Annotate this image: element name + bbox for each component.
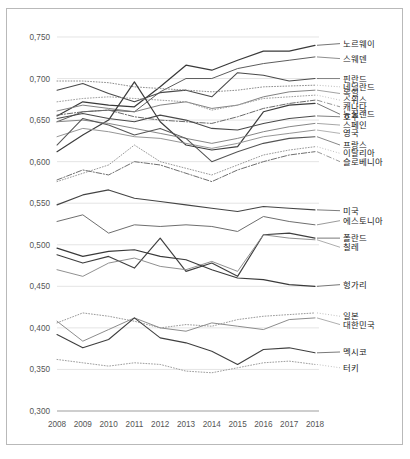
series-leader-line: [317, 90, 340, 93]
x-axis-tick-label: 2014: [203, 420, 222, 429]
x-axis-tick-label: 2013: [177, 420, 196, 429]
series-leader-line: [317, 240, 340, 247]
y-axis-tick-label: 0,400: [30, 324, 51, 333]
series-leader-line: [317, 210, 340, 211]
x-axis-ticks-group: 2008200920102011201220132014201520162017…: [48, 420, 325, 429]
series-leader-line: [317, 130, 340, 133]
x-axis-tick-label: 2009: [74, 420, 93, 429]
series-line: [57, 248, 315, 286]
series-label: 슬로베니아: [343, 157, 383, 167]
series-line: [57, 359, 315, 372]
series-leader-line: [317, 285, 340, 287]
line-chart: 0,3000,3500,4000,4500,5000,5500,6000,650…: [7, 9, 402, 444]
y-axis-tick-label: 0,300: [30, 407, 51, 416]
series-line: [57, 120, 315, 143]
series-leader-line: [317, 123, 340, 125]
y-axis-tick-label: 0,650: [30, 116, 51, 125]
series-leader-line: [317, 100, 340, 107]
series-label: 헝가리: [343, 280, 367, 290]
series-leader-line: [317, 318, 340, 325]
y-axis-tick-label: 0,750: [30, 33, 51, 42]
series-line: [57, 190, 315, 212]
series-lines-group: [57, 45, 315, 372]
series-leader-line: [317, 152, 340, 162]
series-line: [57, 318, 315, 341]
series-leader-line: [317, 85, 340, 87]
series-line: [57, 235, 315, 277]
series-label: 노르웨이: [343, 39, 375, 49]
y-axis-tick-label: 0,500: [30, 241, 51, 250]
series-line: [57, 45, 315, 116]
series-leader-line: [317, 116, 340, 117]
x-axis-tick-label: 2017: [280, 420, 299, 429]
y-axis-tick-label: 0,700: [30, 75, 51, 84]
series-line: [57, 152, 315, 182]
series-leader-line: [317, 103, 340, 114]
y-axis-tick-label: 0,450: [30, 282, 51, 291]
series-line: [57, 145, 315, 182]
series-label: 대한민국: [343, 320, 375, 330]
x-axis-tick-label: 2008: [48, 420, 67, 429]
x-axis-tick-label: 2015: [228, 420, 247, 429]
series-label: 미국: [343, 206, 359, 216]
series-leader-line: [317, 221, 340, 225]
series-leader-line: [317, 313, 340, 316]
y-axis-tick-label: 0,350: [30, 365, 51, 374]
series-leader-line: [317, 352, 340, 353]
series-line: [57, 215, 315, 233]
x-axis-tick-label: 2010: [99, 420, 118, 429]
series-line: [57, 313, 315, 328]
series-leader-line: [317, 147, 340, 154]
x-axis-tick-label: 2018: [306, 420, 325, 429]
series-labels-group: 노르웨이스웨덴핀란드네덜란드독일스위스캐나다뉴질랜드호주스페인영국프랑스이탈리아…: [343, 39, 383, 373]
chart-frame: 0,3000,3500,4000,4500,5000,5500,6000,650…: [6, 8, 403, 445]
series-leader-line: [317, 57, 340, 59]
series-label: 영국: [343, 128, 359, 138]
series-leader-line: [317, 95, 340, 100]
y-axis-ticks-group: 0,3000,3500,4000,4500,5000,5500,6000,650…: [30, 33, 51, 416]
y-axis-tick-label: 0,550: [30, 199, 51, 208]
series-label: 스웨덴: [343, 54, 367, 64]
series-label: 칠레: [343, 242, 359, 252]
series-leader-line: [317, 364, 340, 367]
leader-lines-group: [317, 44, 340, 368]
series-label: 에스토니아: [343, 216, 383, 226]
series-label: 터키: [343, 363, 359, 373]
x-axis-tick-label: 2011: [126, 420, 144, 429]
x-axis-tick-label: 2012: [151, 420, 170, 429]
series-line: [57, 81, 315, 92]
series-label: 멕시코: [343, 347, 367, 357]
series-leader-line: [317, 137, 340, 145]
y-axis-tick-label: 0,600: [30, 158, 51, 167]
x-axis-tick-label: 2016: [254, 420, 273, 429]
series-leader-line: [317, 44, 340, 46]
series-line: [57, 118, 315, 161]
series-line: [57, 57, 315, 122]
